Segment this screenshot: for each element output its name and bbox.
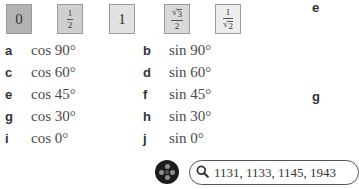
question-item-c: c cos 60° [5,63,76,81]
item-letter: a [5,43,31,58]
side-item-letter-e: e [312,0,319,15]
item-letter: j [143,131,169,146]
tile-value: 0 [15,11,23,28]
question-item-h: h sin 30° [143,107,211,125]
question-item-a: a cos 90° [5,41,76,59]
drop-target-expression[interactable]: sin 30° [169,108,211,125]
radicand: 3 [177,9,182,19]
question-item-f: f sin 45° [143,85,211,103]
fraction-numerator: √3 [171,8,183,20]
drop-target-expression[interactable]: cos 90° [31,42,76,59]
drop-target-expression[interactable]: sin 90° [169,42,211,59]
answer-tile-zero[interactable]: 0 [6,4,32,34]
question-item-i: i cos 0° [5,129,68,147]
item-letter: b [143,43,169,58]
drop-target-expression[interactable]: cos 45° [31,86,76,103]
question-item-b: b sin 90° [143,41,211,59]
item-letter: d [143,65,169,80]
fraction-denominator: √2 [223,19,233,31]
fraction: 1 √2 [223,8,233,31]
side-item-letter-g: g [312,89,320,104]
fraction-numerator: 1 [225,8,232,18]
search-icon [196,164,209,182]
search-input-value[interactable]: 1131, 1133, 1145, 1943 [214,165,336,181]
question-item-j: j sin 0° [143,129,204,147]
fraction-numerator: 1 [67,9,74,19]
fraction-denominator: 2 [175,21,180,31]
drop-target-expression[interactable]: sin 60° [169,64,211,81]
answer-tile-one-over-root2[interactable]: 1 √2 [215,4,241,34]
drop-target-expression[interactable]: cos 60° [31,64,76,81]
item-letter: i [5,131,31,146]
search-field[interactable]: 1131, 1133, 1145, 1943 [189,160,359,185]
question-item-g: g cos 30° [5,107,76,125]
item-letter: e [5,87,31,102]
tile-value: 1 [118,11,126,28]
radicand: 2 [228,21,233,31]
fraction-denominator: 2 [68,20,73,30]
item-letter: h [143,109,169,124]
fraction: 1 2 [67,9,74,30]
fraction: √3 2 [171,8,183,31]
item-letter: f [143,87,169,102]
drop-target-expression[interactable]: cos 30° [31,108,76,125]
question-item-e: e cos 45° [5,85,76,103]
answer-tile-half[interactable]: 1 2 [57,4,83,34]
item-letter: g [5,109,31,124]
app-menu-button[interactable] [155,160,179,184]
drop-target-expression[interactable]: sin 0° [169,130,204,147]
answer-tile-one[interactable]: 1 [109,4,135,34]
drop-target-expression[interactable]: sin 45° [169,86,211,103]
answer-tile-root3-over-2[interactable]: √3 2 [164,4,190,34]
question-item-d: d sin 60° [143,63,211,81]
item-letter: c [5,65,31,80]
drop-target-expression[interactable]: cos 0° [31,130,68,147]
